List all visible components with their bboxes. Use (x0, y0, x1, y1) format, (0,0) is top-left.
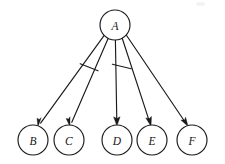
node-f-label: F (187, 135, 196, 147)
node-a-label: A (110, 20, 119, 32)
node-d[interactable]: D (102, 125, 132, 155)
node-b-label: B (29, 135, 36, 147)
edge-a-d-line (115, 40, 116, 121)
edge-a-b (37, 36, 104, 127)
node-e[interactable]: E (137, 125, 167, 155)
edge-a-b-line (41, 36, 104, 124)
node-e-label: E (147, 135, 155, 147)
node-b[interactable]: B (18, 125, 48, 155)
edge-a-f-arrowhead (181, 117, 188, 126)
angle-mark-group (80, 64, 131, 71)
edge-a-c-line (72, 39, 108, 123)
node-c-label: C (65, 135, 73, 147)
figure-canvas: A B C D E F (0, 0, 225, 164)
angle-mark-de-icon (112, 64, 131, 69)
node-f[interactable]: F (177, 125, 207, 155)
edge-a-d (114, 40, 121, 126)
node-d-label: D (112, 135, 122, 147)
node-a[interactable]: A (100, 10, 130, 40)
edge-a-c (66, 39, 108, 127)
node-group: A B C D E F (18, 10, 207, 155)
node-c[interactable]: C (54, 125, 84, 155)
edge-group (37, 36, 188, 127)
edge-a-e-line (122, 39, 149, 122)
graph-diagram: A B C D E F (0, 0, 225, 164)
